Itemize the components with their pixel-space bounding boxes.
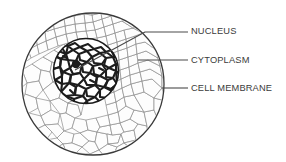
cell-diagram: NUCLEUS CYTOPLASM CELL MEMBRANE — [0, 0, 286, 162]
label-nucleus: NUCLEUS — [191, 26, 236, 36]
label-cytoplasm: CYTOPLASM — [191, 55, 250, 65]
label-cell-membrane: CELL MEMBRANE — [191, 83, 272, 93]
cell-diagram-canvas: NUCLEUS CYTOPLASM CELL MEMBRANE — [0, 0, 286, 162]
